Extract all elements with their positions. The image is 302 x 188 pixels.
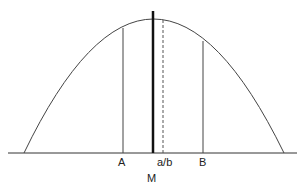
diagram-canvas <box>0 0 302 188</box>
label-b: B <box>199 157 206 168</box>
label-m: M <box>147 173 156 184</box>
label-a: A <box>118 157 125 168</box>
label-ab: a/b <box>157 157 172 168</box>
